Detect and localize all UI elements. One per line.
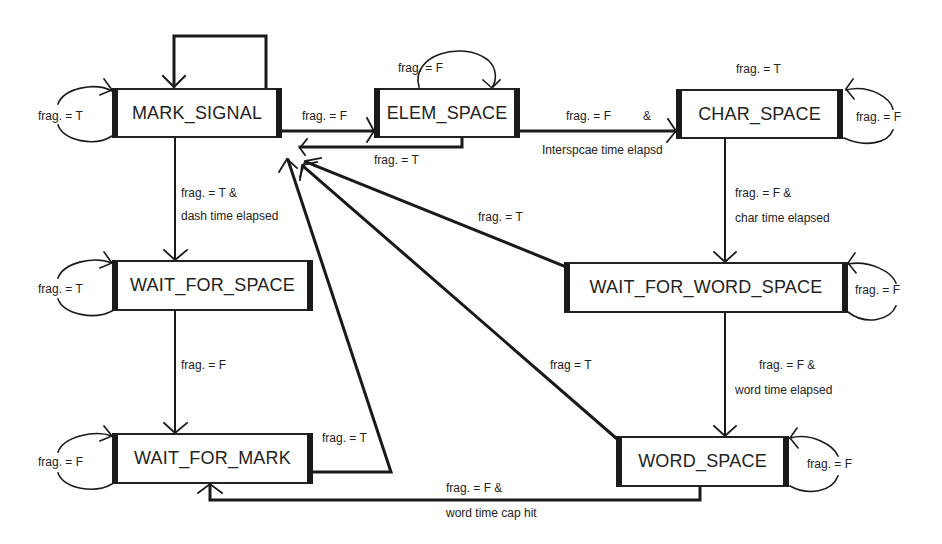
- label-wfws-to-mark: frag. = T: [478, 210, 523, 224]
- state-label: MARK_SIGNAL: [132, 103, 262, 124]
- label-mark-to-wfs-1: frag. = T &: [181, 186, 237, 200]
- label-wfws-to-ws-2: word time elapsed: [735, 383, 832, 397]
- label-char-to-wfws-2: char time elapsed: [735, 211, 830, 225]
- arrowhead: [483, 80, 500, 88]
- label-wfws-self: frag. = F: [855, 283, 900, 297]
- state-label: WAIT_FOR_WORD_SPACE: [590, 277, 823, 298]
- arrow-elem-to-mark: [300, 138, 462, 147]
- state-label: WAIT_FOR_MARK: [134, 448, 291, 469]
- arrow-char-space-to-mark-signal: [174, 36, 266, 89]
- state-wait-for-word-space: WAIT_FOR_WORD_SPACE: [564, 262, 848, 313]
- label-elem-to-mark: frag. = T: [374, 153, 419, 167]
- arrow-wfm-to-mark: [288, 160, 391, 472]
- label-elem-to-char-amp: &: [643, 109, 651, 123]
- state-label: ELEM_SPACE: [387, 103, 508, 124]
- label-elem-self: frag. = F: [398, 61, 443, 75]
- state-mark-signal: MARK_SIGNAL: [112, 88, 282, 138]
- state-word-space: WORD_SPACE: [616, 436, 789, 487]
- label-ws-to-wfm-2: word time cap hit: [446, 506, 537, 520]
- label-wfs-self: frag. = T: [38, 282, 83, 296]
- label-ws-self: frag. = F: [807, 457, 852, 471]
- state-wait-for-mark: WAIT_FOR_MARK: [112, 433, 313, 484]
- state-label: WORD_SPACE: [638, 451, 767, 472]
- label-wfm-self: frag. = F: [38, 455, 83, 469]
- label-wfws-to-ws-1: frag. = F &: [759, 358, 815, 372]
- label-char-to-wfws-1: frag. = F &: [735, 186, 791, 200]
- state-char-space: CHAR_SPACE: [676, 89, 843, 139]
- label-elem-to-char-2: Interspcae time elapsd: [542, 143, 663, 157]
- state-label: WAIT_FOR_SPACE: [130, 275, 295, 296]
- label-ws-to-mark: frag = T: [550, 358, 591, 372]
- label-mark-signal-self: frag. = T: [38, 109, 83, 123]
- state-label: CHAR_SPACE: [698, 104, 821, 125]
- label-wfm-to-mark: frag. = T: [322, 431, 367, 445]
- arrow-wfws-to-mark: [306, 162, 564, 266]
- state-machine-diagram: MARK_SIGNAL ELEM_SPACE CHAR_SPACE WAIT_F…: [0, 0, 942, 544]
- label-wfs-to-wfm: frag. = F: [181, 358, 226, 372]
- label-mark-to-wfs-2: dash time elapsed: [181, 209, 278, 223]
- label-elem-to-char-1: frag. = F: [566, 109, 611, 123]
- state-wait-for-space: WAIT_FOR_SPACE: [112, 260, 313, 311]
- label-char-self: frag. = F: [856, 110, 901, 124]
- label-mark-to-elem: frag. = F: [302, 109, 347, 123]
- label-char-to-mark: frag. = T: [736, 62, 781, 76]
- state-elem-space: ELEM_SPACE: [374, 88, 520, 138]
- arrowhead: [279, 159, 297, 172]
- label-ws-to-wfm-1: frag. = F &: [446, 481, 502, 495]
